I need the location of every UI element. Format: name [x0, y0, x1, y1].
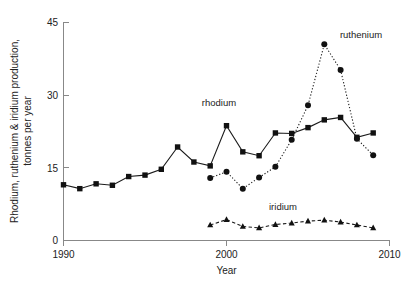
- marker-rhodium: [224, 123, 229, 128]
- marker-rhodium: [273, 130, 278, 135]
- marker-iridium: [240, 223, 246, 229]
- marker-rhodium: [338, 115, 343, 120]
- marker-ruthenium: [338, 67, 344, 73]
- iridium-series-label: iridium: [269, 201, 297, 212]
- x-tick-label-2010: 2010: [378, 249, 401, 260]
- marker-rhodium: [191, 159, 196, 164]
- series-line-ruthenium: [210, 44, 373, 188]
- marker-rhodium: [208, 163, 213, 168]
- marker-rhodium: [175, 144, 180, 149]
- y-tick-label-45: 45: [47, 17, 59, 28]
- x-tick-label-2000: 2000: [215, 249, 238, 260]
- rhodium-series-label: rhodium: [202, 97, 236, 108]
- marker-rhodium: [93, 181, 98, 186]
- marker-rhodium: [305, 125, 310, 130]
- y-axis-ticks: [64, 23, 69, 241]
- marker-ruthenium: [224, 169, 230, 175]
- series-ruthenium: [207, 41, 376, 191]
- marker-iridium: [223, 216, 229, 222]
- chart-svg: 0 15 30 45 1990 2000 2010 Year Rhodium, …: [0, 0, 413, 281]
- marker-rhodium: [371, 130, 376, 135]
- marker-iridium: [305, 218, 311, 224]
- x-tick-label-1990: 1990: [52, 249, 75, 260]
- y-tick-label-0: 0: [52, 235, 58, 246]
- marker-ruthenium: [207, 175, 213, 181]
- ruthenium-series-label: ruthenium: [340, 29, 382, 40]
- marker-iridium: [321, 217, 327, 223]
- series-rhodium: [61, 115, 376, 192]
- series-iridium: [207, 216, 376, 230]
- marker-rhodium: [240, 149, 245, 154]
- marker-ruthenium: [321, 41, 327, 47]
- chart-figure: 0 15 30 45 1990 2000 2010 Year Rhodium, …: [0, 0, 413, 281]
- axis-spines: [64, 22, 391, 241]
- marker-rhodium: [159, 167, 164, 172]
- marker-rhodium: [61, 182, 66, 187]
- marker-iridium: [289, 220, 295, 226]
- marker-ruthenium: [272, 164, 278, 170]
- y-tick-label-30: 30: [47, 90, 59, 101]
- x-axis-title: Year: [216, 265, 237, 276]
- marker-ruthenium: [354, 136, 360, 142]
- marker-rhodium: [256, 153, 261, 158]
- series-line-rhodium: [64, 117, 374, 188]
- marker-ruthenium: [305, 102, 311, 108]
- marker-rhodium: [77, 186, 82, 191]
- marker-ruthenium: [256, 175, 262, 181]
- plot-data-layer: [61, 41, 376, 230]
- marker-ruthenium: [289, 137, 295, 143]
- y-axis-title-line1: Rhodium, ruthenium & iridium production,: [9, 39, 20, 223]
- x-axis-ticks: [64, 241, 390, 246]
- marker-ruthenium: [370, 152, 376, 158]
- marker-rhodium: [126, 174, 131, 179]
- y-tick-label-15: 15: [47, 163, 59, 174]
- y-axis-title-line2: tonnes per year: [22, 96, 33, 166]
- marker-rhodium: [322, 117, 327, 122]
- marker-rhodium: [142, 172, 147, 177]
- marker-rhodium: [110, 183, 115, 188]
- marker-ruthenium: [240, 186, 246, 192]
- marker-iridium: [338, 219, 344, 225]
- marker-rhodium: [289, 131, 294, 136]
